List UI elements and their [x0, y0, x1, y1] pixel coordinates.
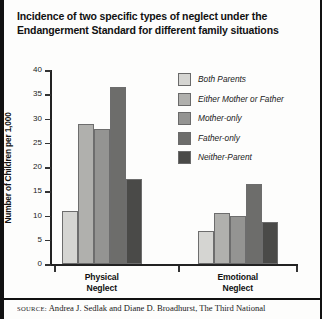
y-tick-label: 20: [33, 163, 42, 171]
legend-label: Neither-Parent: [198, 152, 252, 162]
y-tick-mark: [45, 216, 51, 218]
y-tick-mark: [45, 143, 51, 145]
y-tick-mark: [45, 240, 51, 242]
legend-swatch: [178, 112, 191, 125]
source-note: SOURCE: Andrea J. Sedlak and Diane D. Br…: [17, 303, 317, 314]
y-tick-mark: [45, 167, 51, 169]
y-tick-label: 0: [38, 260, 42, 268]
bar: [214, 213, 230, 264]
bar: [62, 211, 78, 264]
bar: [198, 231, 214, 264]
bar: [78, 124, 94, 264]
bar: [94, 129, 110, 264]
y-tick-mark: [45, 264, 51, 266]
legend-swatch: [178, 73, 191, 86]
legend-swatch: [178, 93, 191, 106]
legend-swatch: [178, 151, 191, 164]
y-tick-label: 40: [33, 66, 42, 74]
bar: [246, 184, 262, 264]
bottom-divider-rule: [4, 298, 320, 300]
y-tick-label: 30: [33, 115, 42, 123]
x-axis-line: [50, 264, 298, 266]
y-tick-label: 10: [33, 212, 42, 220]
y-tick-label: 25: [33, 139, 42, 147]
legend-label: Father-only: [198, 133, 240, 143]
y-tick-mark: [45, 119, 51, 121]
legend-swatch: [178, 132, 191, 145]
x-tick-mark: [296, 266, 298, 272]
bar: [262, 222, 278, 264]
y-tick-mark: [45, 191, 51, 193]
x-group-label: Emotional Neglect: [193, 272, 283, 294]
legend-label: Mother-only: [198, 113, 242, 123]
source-citation: Andrea J. Sedlak and Diane D. Broadhurst…: [49, 303, 266, 313]
y-tick-label: 5: [38, 236, 42, 244]
source-prefix: SOURCE:: [17, 305, 47, 312]
legend-label: Either Mother or Father: [198, 94, 284, 104]
y-tick-mark: [45, 70, 51, 72]
x-group-label: Physical Neglect: [57, 272, 147, 294]
x-tick-mark: [178, 266, 180, 272]
legend-label: Both Parents: [198, 74, 246, 84]
y-tick-label: 15: [33, 187, 42, 195]
x-tick-mark: [54, 266, 56, 272]
bar: [110, 87, 126, 265]
bar: [126, 179, 142, 264]
figure-panel: Incidence of two specific types of negle…: [0, 0, 322, 319]
bar: [230, 216, 246, 264]
y-tick-mark: [45, 94, 51, 96]
y-tick-label: 35: [33, 90, 42, 98]
chart-title: Incidence of two specific types of negle…: [17, 9, 305, 37]
y-axis-label: Number of Children per 1,000: [3, 112, 13, 223]
